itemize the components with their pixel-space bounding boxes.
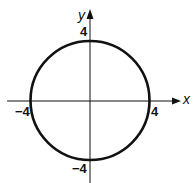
x-axis-arrow-icon — [172, 98, 181, 105]
x-axis-label: x — [183, 92, 190, 106]
y-axis-arrow-icon — [87, 9, 94, 19]
y-tick-4: 4 — [80, 25, 87, 38]
x-tick-neg4: −4 — [15, 105, 30, 118]
circle-graph — [0, 0, 193, 183]
x-tick-4: 4 — [151, 105, 158, 118]
y-tick-neg4: −4 — [72, 162, 87, 175]
y-axis-label: y — [78, 8, 85, 22]
